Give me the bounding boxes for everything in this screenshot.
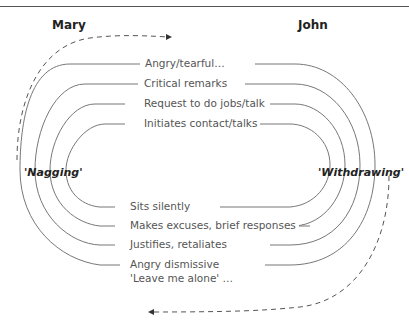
arrowhead-bottom-icon xyxy=(148,309,154,315)
pattern-withdrawing: 'Withdrawing' xyxy=(318,166,404,179)
john-behaviour-4-continuation: 'Leave me alone' … xyxy=(127,272,236,285)
john-behaviour-1: Sits silently xyxy=(127,200,193,213)
person-mary: Mary xyxy=(52,18,86,32)
john-behaviour-4: Angry dismissive xyxy=(127,258,222,271)
pattern-nagging: 'Nagging' xyxy=(24,166,83,179)
mary-behaviour-4: Initiates contact/talks xyxy=(141,117,260,130)
person-john: John xyxy=(298,18,328,32)
john-behaviour-3: Justifies, retaliates xyxy=(127,238,230,251)
arrowhead-top-icon xyxy=(166,34,172,40)
mary-behaviour-1: Angry/tearful… xyxy=(142,57,228,70)
mary-behaviour-2: Critical remarks xyxy=(141,77,230,90)
ring-1 xyxy=(20,64,375,265)
ring-4 xyxy=(66,124,330,207)
mary-behaviour-3: Request to do jobs/talk xyxy=(141,97,268,110)
john-behaviour-2: Makes excuses, brief responses xyxy=(127,219,299,232)
